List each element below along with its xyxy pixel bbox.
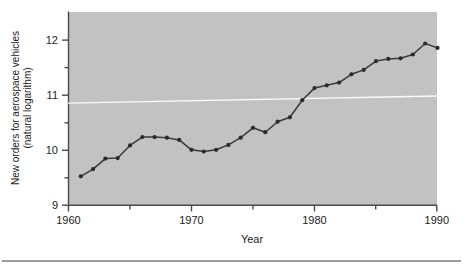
x-tick-label-1980: 1980 (302, 214, 326, 226)
data-point (128, 143, 132, 147)
data-point (214, 148, 218, 152)
plot-area-background (68, 12, 437, 205)
x-tick-label-1990: 1990 (425, 214, 449, 226)
data-point (177, 138, 181, 142)
data-point (116, 156, 120, 160)
data-point (325, 83, 329, 87)
data-point (251, 126, 255, 130)
aerospace-orders-line-chart: 12 11 10 9 1960 1970 1980 1990 Year New … (0, 0, 463, 268)
data-point (276, 120, 280, 124)
data-point (140, 135, 144, 139)
data-point (239, 136, 243, 140)
y-axis-title-line2: (natural logarithm) (22, 67, 33, 148)
y-tick-label-11: 11 (47, 89, 58, 101)
x-tick-label-1970: 1970 (179, 214, 203, 226)
data-point (362, 68, 366, 72)
data-point (312, 86, 316, 90)
data-point (411, 52, 415, 56)
data-point (337, 81, 341, 85)
data-point (202, 149, 206, 153)
y-tick-label-10: 10 (46, 144, 58, 156)
data-point (165, 136, 169, 140)
data-point (103, 157, 107, 161)
data-point (386, 57, 390, 61)
data-point (288, 115, 292, 119)
x-axis-title: Year (241, 233, 264, 245)
data-point (399, 56, 403, 60)
data-point (91, 167, 95, 171)
data-point (153, 135, 157, 139)
x-tick-label-1960: 1960 (56, 214, 80, 226)
data-point (349, 72, 353, 76)
data-point (226, 143, 230, 147)
data-point (423, 41, 427, 45)
data-point (300, 98, 304, 102)
y-tick-label-12: 12 (46, 34, 58, 46)
chart-figure: 12 11 10 9 1960 1970 1980 1990 Year New … (0, 0, 463, 268)
data-point (435, 46, 439, 50)
data-point (263, 130, 267, 134)
data-point (189, 148, 193, 152)
y-tick-label-9: 9 (52, 199, 58, 211)
data-point (79, 174, 83, 178)
data-point (374, 59, 378, 63)
y-axis-title-line1: New orders for aerospace vehicles (10, 31, 21, 185)
